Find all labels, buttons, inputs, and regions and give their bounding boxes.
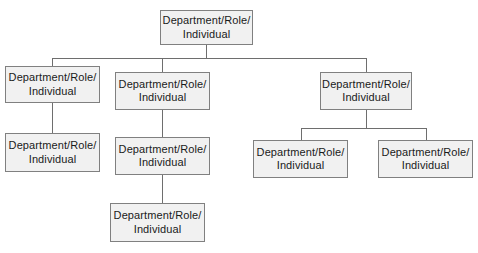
org-node-child-2-1-1[interactable]: Department/Role/ Individual	[110, 203, 205, 242]
org-node-child-3-2-label: Department/Role/ Individual	[379, 146, 472, 173]
connector-child-3-1-drop	[301, 128, 302, 140]
org-node-branch-3[interactable]: Department/Role/ Individual	[320, 72, 412, 110]
connector-branch-3-bus	[301, 128, 427, 129]
org-node-child-2-1[interactable]: Department/Role/ Individual	[115, 137, 210, 175]
connector-branch-3-stem	[366, 110, 367, 128]
org-node-branch-3-label: Department/Role/ Individual	[321, 78, 411, 105]
connector-branch-1-drop	[52, 58, 53, 66]
org-node-branch-1-label: Department/Role/ Individual	[6, 71, 99, 98]
connector-branch-2-to-child	[162, 110, 163, 137]
org-node-child-1-1[interactable]: Department/Role/ Individual	[5, 133, 100, 172]
org-node-child-3-2[interactable]: Department/Role/ Individual	[378, 140, 473, 178]
connector-branch-3-drop	[366, 58, 367, 72]
org-node-child-2-1-label: Department/Role/ Individual	[116, 143, 209, 170]
connector-main-bus	[52, 58, 367, 59]
org-node-root-label: Department/Role/ Individual	[161, 14, 252, 41]
org-node-branch-2-label: Department/Role/ Individual	[116, 78, 209, 105]
connector-child-3-2-drop	[426, 128, 427, 140]
org-node-branch-1[interactable]: Department/Role/ Individual	[5, 66, 100, 103]
org-node-child-2-1-1-label: Department/Role/ Individual	[111, 209, 204, 236]
org-node-child-3-1-label: Department/Role/ Individual	[254, 146, 347, 173]
org-node-child-3-1[interactable]: Department/Role/ Individual	[253, 140, 348, 178]
connector-branch-1-to-child	[52, 103, 53, 133]
org-node-root[interactable]: Department/Role/ Individual	[160, 10, 253, 45]
connector-child-2-1-to-grandchild	[162, 175, 163, 203]
connector-branch-2-drop	[162, 58, 163, 72]
connector-root-stem	[206, 45, 207, 58]
org-node-child-1-1-label: Department/Role/ Individual	[6, 139, 99, 166]
org-node-branch-2[interactable]: Department/Role/ Individual	[115, 72, 210, 110]
org-chart-diagram: Department/Role/ Individual Department/R…	[0, 0, 478, 253]
